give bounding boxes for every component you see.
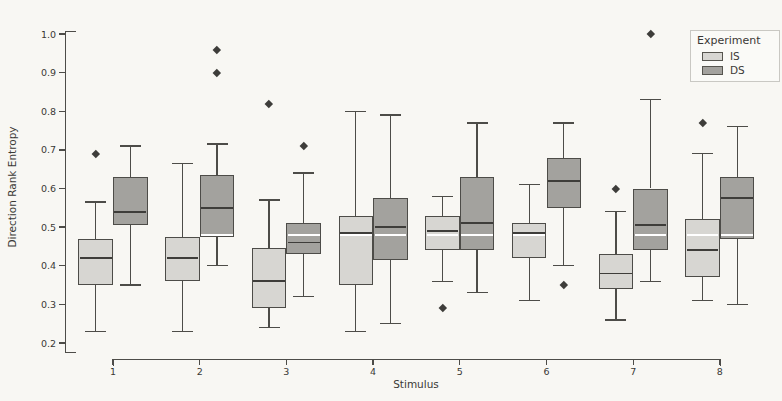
box-whisker-cap-upper <box>345 111 366 112</box>
box-whisker-cap-upper <box>467 122 488 123</box>
box-IS-8 <box>685 219 720 277</box>
box-whisker-lower <box>355 285 356 331</box>
box-whisker-cap-lower <box>727 304 748 305</box>
box-whisker-lower <box>442 250 443 281</box>
box-whisker-cap-upper <box>172 163 193 164</box>
box-median-line <box>253 280 285 282</box>
legend-swatch-is <box>702 52 723 61</box>
box-whisker-lower <box>650 250 651 281</box>
x-axis-tick-label: 5 <box>448 365 472 378</box>
box-median-line <box>114 211 146 213</box>
box-whisker-lower <box>182 281 183 331</box>
box-whisker-cap-upper <box>727 126 748 127</box>
box-DS-8 <box>720 177 755 239</box>
box-whisker-upper <box>130 146 131 177</box>
y-axis-tick-label: 0.7 <box>26 143 56 156</box>
y-axis-tick-label: 0.6 <box>26 182 56 195</box>
box-whisker-lower <box>216 237 217 266</box>
y-axis-tick-label: 0.5 <box>26 221 56 234</box>
box-DS-4 <box>373 198 408 260</box>
box-whisker-cap-upper <box>432 196 453 197</box>
box-whisker-upper <box>702 154 703 220</box>
box-DS-3 <box>286 223 321 254</box>
legend-label-ds: DS <box>730 65 745 76</box>
box-whisker-cap-lower <box>293 296 314 297</box>
box-whisker-lower <box>563 208 564 266</box>
box-whisker-lower <box>130 225 131 285</box>
box-whisker-cap-upper <box>293 172 314 173</box>
reference-line-segment <box>721 234 753 236</box>
x-axis-tick-label: 3 <box>274 365 298 378</box>
box-whisker-cap-lower <box>207 265 228 266</box>
y-axis-tick <box>59 72 65 73</box>
box-DS-7 <box>633 189 668 251</box>
y-axis-tick-label: 0.4 <box>26 259 56 272</box>
box-IS-4 <box>339 216 374 286</box>
outlier-point <box>699 119 707 127</box>
box-DS-1 <box>113 177 148 225</box>
box-whisker-lower <box>95 285 96 331</box>
x-axis-label: Stimulus <box>336 378 496 390</box>
y-axis-cap-bottom <box>65 352 76 353</box>
legend-title: Experiment <box>697 33 775 48</box>
outlier-point <box>213 45 221 53</box>
box-whisker-upper <box>182 163 183 236</box>
box-DS-2 <box>200 175 235 237</box>
y-axis-cap-top <box>65 31 76 32</box>
box-whisker-cap-lower <box>605 319 626 320</box>
box-median-line <box>167 257 199 259</box>
box-whisker-lower <box>268 308 269 327</box>
legend-label-is: IS <box>730 51 740 62</box>
x-axis-tick-label: 8 <box>708 365 732 378</box>
box-whisker-cap-lower <box>640 281 661 282</box>
x-axis-tick-label: 1 <box>101 365 125 378</box>
box-whisker-cap-upper <box>640 99 661 100</box>
y-axis-tick <box>59 33 65 34</box>
reference-line-segment <box>635 234 667 236</box>
box-whisker-cap-lower <box>692 300 713 301</box>
box-whisker-cap-lower <box>553 265 574 266</box>
box-whisker-lower <box>390 260 391 324</box>
box-median-line <box>548 180 580 182</box>
y-axis-tick <box>59 188 65 189</box>
box-whisker-cap-upper <box>120 145 141 146</box>
reference-line-segment <box>375 234 407 236</box>
box-IS-1 <box>78 239 113 285</box>
x-axis-tick-label: 6 <box>535 365 559 378</box>
box-whisker-upper <box>268 200 269 248</box>
box-whisker-cap-lower <box>519 300 540 301</box>
box-median-line <box>375 226 407 228</box>
x-axis-tick-label: 4 <box>361 365 385 378</box>
y-axis-tick-label: 1.0 <box>26 28 56 41</box>
x-axis-tick-label: 2 <box>188 365 212 378</box>
y-axis-tick-label: 0.3 <box>26 298 56 311</box>
y-axis-tick-label: 0.9 <box>26 66 56 79</box>
box-whisker-cap-lower <box>259 327 280 328</box>
box-whisker-cap-upper <box>259 199 280 200</box>
outlier-point <box>265 100 273 108</box>
box-whisker-cap-lower <box>85 331 106 332</box>
outlier-point <box>647 30 655 38</box>
box-whisker-upper <box>615 212 616 254</box>
y-axis-tick-label: 0.2 <box>26 337 56 350</box>
box-whisker-upper <box>216 144 217 175</box>
reference-line-segment <box>461 234 493 236</box>
box-whisker-cap-upper <box>207 143 228 144</box>
box-median-line <box>288 242 320 244</box>
y-axis-tick <box>59 304 65 305</box>
reference-line-segment <box>340 234 372 236</box>
x-axis-tick-label: 7 <box>621 365 645 378</box>
box-whisker-lower <box>737 239 738 305</box>
legend: Experiment IS DS <box>690 30 780 82</box>
y-axis-spine <box>65 31 66 353</box>
reference-line-segment <box>201 234 233 236</box>
box-whisker-cap-upper <box>85 201 106 202</box>
box-whisker-lower <box>476 250 477 292</box>
y-axis-label: Direction Rank Entropy <box>6 99 18 275</box>
box-IS-2 <box>165 237 200 281</box>
box-whisker-cap-lower <box>467 292 488 293</box>
box-IS-6 <box>512 223 547 258</box>
box-IS-7 <box>599 254 634 289</box>
reference-line-segment <box>687 234 719 236</box>
box-whisker-upper <box>650 100 651 189</box>
